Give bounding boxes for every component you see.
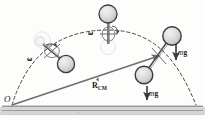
rcm-label: RCM [92,82,107,90]
dumbbell-top [99,5,117,44]
rcm-subscript: CM [98,85,107,91]
rcm-symbol: R [92,81,98,90]
origin-label: O [4,95,11,104]
mg-label-upper-right: mg [178,49,187,57]
dumbbell-left [36,37,75,73]
mg-gravity-symbol: g [154,89,158,98]
omega-label-top: ω [88,30,93,36]
dumbbell-right [135,27,181,84]
mg-label-lower-right: mg [149,90,158,98]
ground [0,106,205,115]
mg-gravity-symbol: g [183,48,187,57]
omega-label-left: ω [27,56,32,62]
physics-figure: O RCM ω ω mg mg [0,0,205,120]
